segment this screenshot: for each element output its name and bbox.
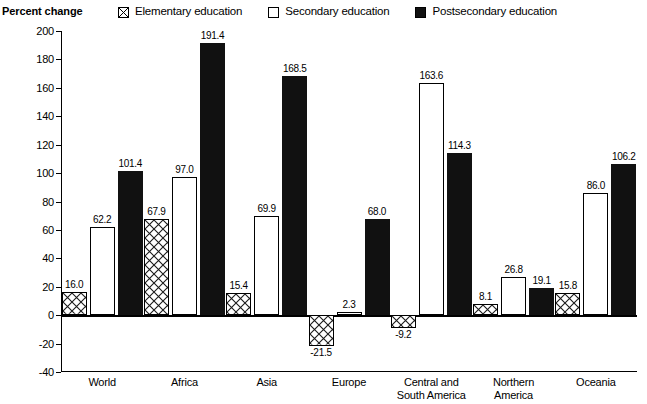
y-axis-tick [56,116,61,117]
y-axis-line [61,31,62,372]
bar [583,193,608,315]
bar-value-label: -9.2 [383,330,424,340]
open-square-swatch-icon [268,7,279,18]
bar [144,219,169,315]
bar [611,164,636,315]
x-axis-category-labels: WorldAfricaAsiaEuropeCentral and South A… [61,376,637,404]
bar-value-label: 106.2 [603,152,644,162]
chart-legend: Elementary education Secondary education… [118,4,557,20]
y-axis-title: Percent change [2,5,83,17]
bar [337,312,362,315]
legend-item-secondary-education: Secondary education [268,6,389,18]
bar [473,304,498,316]
y-axis-tick-label: 180 [36,53,54,65]
crosshatch-swatch-icon [118,7,129,18]
y-axis-tick-label: -40 [39,366,54,378]
y-axis-tick [56,372,61,373]
bar [90,227,115,315]
y-axis-tick-label: 100 [36,167,54,179]
x-axis-category-label: Europe [308,376,390,389]
bar [62,292,87,315]
legend-label-elementary-education: Elementary education [135,6,242,18]
y-axis-tick-labels: 200180160140120100806040200-20-40 [17,31,54,372]
bar [309,315,334,346]
y-axis-tick [56,173,61,174]
bar [282,76,307,315]
y-axis-tick [56,145,61,146]
y-axis-tick [56,88,61,89]
y-axis-tick [56,230,61,231]
bar-value-label: 15.8 [547,281,588,291]
legend-item-postsecondary-education: Postsecondary education [415,6,557,18]
x-axis-category-label: Africa [143,376,225,389]
y-axis-tick-label: 60 [42,224,54,236]
zero-baseline [61,315,637,317]
bar-value-label: 163.6 [411,71,452,81]
bar [172,177,197,315]
bar [555,293,580,315]
plot-bottom-frame [61,371,637,372]
bar [419,83,444,315]
y-axis-tick-label: 0 [48,309,54,321]
legend-label-postsecondary-education: Postsecondary education [432,6,557,18]
y-axis-tick [56,31,61,32]
y-axis-tick-label: -20 [39,338,54,350]
bar-value-label: 101.4 [110,159,151,169]
x-axis-category-label: Oceania [555,376,637,389]
bar [118,171,143,315]
y-axis-tick [56,315,61,316]
x-axis-category-label: Northern America [472,376,554,401]
bar-value-label: 86.0 [575,181,616,191]
bar-value-label: 191.4 [192,31,233,41]
bar-value-label: 2.3 [329,300,370,310]
bar [365,219,390,316]
bar-value-label: 15.4 [218,281,259,291]
bar-value-label: 62.2 [82,215,123,225]
bar-value-label: 168.5 [274,64,315,74]
y-axis-tick [56,59,61,60]
y-axis-tick-label: 40 [42,252,54,264]
bar-value-label: 67.9 [136,207,177,217]
y-axis-tick-label: 120 [36,139,54,151]
y-axis-tick-label: 200 [36,25,54,37]
bar-value-label: 114.3 [439,141,480,151]
bar [254,216,279,315]
bar-value-label: -21.5 [301,348,342,358]
x-axis-category-label: Asia [226,376,308,389]
legend-item-elementary-education: Elementary education [118,6,242,18]
x-axis-category-label: World [61,376,143,389]
bar-chart: ​ Percent change Elementary education Se… [0,0,647,404]
y-axis-tick [56,344,61,345]
legend-label-secondary-education: Secondary education [285,6,389,18]
bar-value-label: 8.1 [465,292,506,302]
x-axis-category-label: Central and South America [390,376,472,401]
solid-square-swatch-icon [415,7,426,18]
y-axis-tick [56,202,61,203]
bar-value-label: 69.9 [246,204,287,214]
y-axis-tick-label: 140 [36,110,54,122]
y-axis-tick [56,258,61,259]
bar-value-label: 68.0 [357,207,398,217]
bar [200,43,225,315]
y-axis-tick-label: 20 [42,281,54,293]
plot-area: 16.062.2101.467.997.0191.415.469.9168.5-… [61,31,637,372]
bar-value-label: 97.0 [164,165,205,175]
y-axis-tick-label: 80 [42,196,54,208]
bar [226,293,251,315]
bar [529,288,554,315]
bar [391,315,416,328]
bar-value-label: 16.0 [54,280,95,290]
bar-value-label: 26.8 [493,265,534,275]
y-axis-tick-label: 160 [36,82,54,94]
